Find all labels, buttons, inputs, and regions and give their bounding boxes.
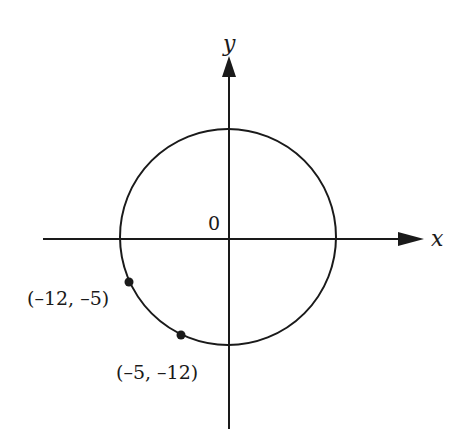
y-axis-arrow-icon — [222, 56, 236, 77]
x-axis-arrow-icon — [398, 232, 424, 246]
y-axis-label: y — [223, 33, 235, 55]
point-label-2: (–5, –12) — [116, 363, 198, 382]
point-marker-1 — [125, 278, 134, 287]
point-label-1: (–12, –5) — [27, 289, 109, 308]
origin-label: 0 — [208, 214, 220, 233]
diagram-canvas — [0, 0, 472, 448]
x-axis-label: x — [431, 228, 443, 250]
point-marker-2 — [177, 331, 186, 340]
circle-diagram: y x 0 (–12, –5) (–5, –12) — [0, 0, 472, 448]
